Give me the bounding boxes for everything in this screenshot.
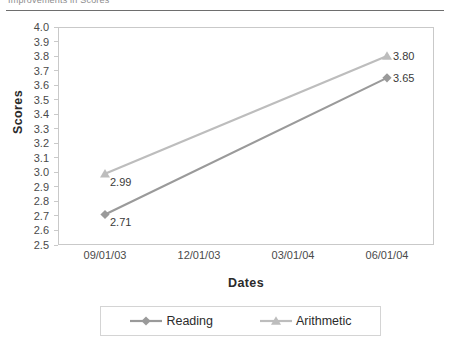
y-axis-tick: 2.5 — [0, 239, 58, 251]
triangle-marker-icon — [259, 314, 293, 328]
y-axis-tick: 2.7 — [0, 210, 58, 222]
y-axis-tick: 4.0 — [0, 21, 58, 33]
y-axis-tick: 3.4 — [0, 108, 58, 120]
y-axis-tick: 3.8 — [0, 50, 58, 62]
legend-item-reading[interactable]: Reading — [129, 314, 213, 328]
x-axis-tick: 09/01/03 — [65, 249, 145, 261]
y-axis-tick: 2.6 — [0, 224, 58, 236]
x-axis: 09/01/0312/01/0303/01/0406/01/04 — [58, 246, 434, 266]
y-axis-tick: 3.0 — [0, 166, 58, 178]
data-point-label: 2.99 — [110, 176, 131, 188]
x-axis-tick: 03/01/04 — [253, 249, 333, 261]
data-point-label: 3.65 — [393, 72, 414, 84]
y-axis-tick: 3.5 — [0, 94, 58, 106]
y-axis-tick: 3.2 — [0, 137, 58, 149]
y-axis-tick: 2.8 — [0, 195, 58, 207]
y-axis-tick: 3.6 — [0, 79, 58, 91]
diamond-marker-icon — [129, 314, 163, 328]
plot-area — [58, 27, 434, 245]
y-axis-tick: 3.3 — [0, 123, 58, 135]
y-axis-tick: 3.7 — [0, 65, 58, 77]
legend-label: Reading — [166, 314, 213, 328]
legend-item-arithmetic[interactable]: Arithmetic — [259, 314, 352, 328]
data-point-label: 2.71 — [110, 216, 131, 228]
y-axis-tick: 3.1 — [0, 152, 58, 164]
x-axis-tick: 12/01/03 — [159, 249, 239, 261]
y-axis-tick: 3.9 — [0, 36, 58, 48]
data-point-label: 3.80 — [393, 50, 414, 62]
chart-legend: ReadingArithmetic — [100, 306, 381, 336]
x-axis-tick: 06/01/04 — [347, 249, 427, 261]
top-cropped-caption: Improvements in Scores — [8, 0, 308, 6]
y-axis-tick: 2.9 — [0, 181, 58, 193]
header-divider — [6, 10, 444, 11]
x-axis-title: Dates — [58, 276, 434, 290]
legend-label: Arithmetic — [296, 314, 352, 328]
y-axis: 4.03.93.83.73.63.53.43.33.23.13.02.92.82… — [0, 27, 58, 245]
